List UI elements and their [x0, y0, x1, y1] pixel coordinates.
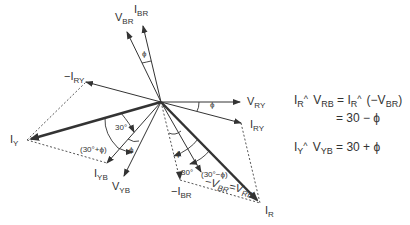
equation-line-2: = 30 − ϕ — [336, 112, 380, 124]
label-v-br: VBR — [115, 12, 133, 26]
phasor-i-br — [143, 26, 161, 102]
angle-label-30-ir: 30° — [181, 169, 193, 177]
label-v-ry: VRY — [247, 96, 265, 110]
label-i-y: IY — [10, 134, 18, 148]
arc-phi-ry — [197, 102, 199, 111]
label-v-yb: VYB — [112, 181, 130, 195]
angle-label-30-y: 30° — [115, 124, 127, 132]
equation-line-1: IR VRB = IR (−VBR) — [294, 94, 402, 109]
label-i-yb: IYB — [94, 168, 108, 182]
phasor-v-br — [127, 32, 161, 102]
label-i-ry: IRY — [250, 119, 264, 133]
phasor-neg-i-ry — [86, 82, 161, 102]
label-i-br: IBR — [134, 4, 148, 18]
angle-label-phi-br: ϕ — [142, 50, 146, 58]
label-neg-i-ry: −IRY — [64, 71, 84, 85]
phasor-i-y — [31, 102, 161, 139]
angle-label-phi-yb: ϕ — [129, 146, 133, 154]
angle-label-phi-ry: ϕ — [210, 101, 214, 109]
angle-label-30-plus-phi: (30°+ϕ) — [80, 146, 107, 154]
label-i-r: IR — [265, 205, 274, 219]
arc-phi-br — [142, 61, 151, 63]
phasor-i-yb — [107, 102, 161, 163]
phasor-neg-ibr-line — [161, 102, 180, 180]
phasor-v-yb — [124, 102, 161, 176]
angle-label-30-minus-phi: (30°−ϕ) — [201, 171, 228, 179]
equation-line-3: IY VYB = 30 + ϕ — [294, 141, 380, 156]
arc-phi-yb — [128, 139, 139, 142]
label-neg-i-br: −IBR — [171, 186, 192, 200]
angle-label-phi-ir: ϕ — [176, 150, 180, 158]
